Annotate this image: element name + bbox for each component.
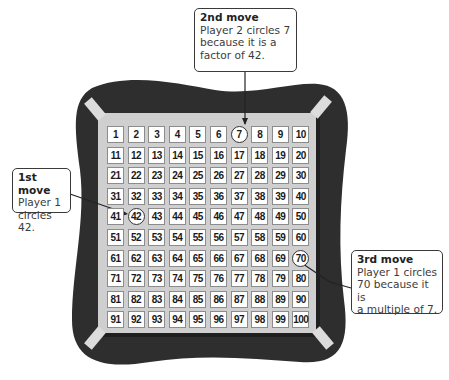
grid-cell[interactable]: 47	[231, 208, 248, 225]
grid-cell[interactable]: 27	[231, 167, 248, 184]
grid-cell[interactable]: 82	[128, 291, 145, 308]
grid-cell[interactable]: 98	[251, 311, 268, 328]
grid-cell[interactable]: 62	[128, 250, 145, 267]
grid-cell[interactable]: 52	[128, 229, 145, 246]
grid-cell[interactable]: 77	[231, 270, 248, 287]
grid-cell[interactable]: 34	[169, 188, 186, 205]
grid-cell[interactable]: 38	[251, 188, 268, 205]
grid-cell[interactable]: 29	[272, 167, 289, 184]
grid-cell[interactable]: 23	[148, 167, 165, 184]
grid-cell[interactable]: 100	[292, 311, 309, 328]
grid-cell[interactable]: 36	[210, 188, 227, 205]
grid-cell[interactable]: 5	[189, 126, 206, 143]
grid-cell[interactable]: 50	[292, 208, 309, 225]
grid-cell[interactable]: 91	[107, 311, 124, 328]
grid-cell[interactable]: 35	[189, 188, 206, 205]
grid-cell[interactable]: 71	[107, 270, 124, 287]
grid-cell[interactable]: 15	[189, 147, 206, 164]
grid-cell[interactable]: 88	[251, 291, 268, 308]
grid-cell[interactable]: 61	[107, 250, 124, 267]
grid-cell[interactable]: 95	[189, 311, 206, 328]
grid-cell[interactable]: 59	[272, 229, 289, 246]
grid-cell[interactable]: 84	[169, 291, 186, 308]
grid-cell-circled[interactable]: 7	[231, 126, 248, 143]
grid-cell[interactable]: 63	[148, 250, 165, 267]
grid-cell[interactable]: 45	[189, 208, 206, 225]
grid-cell[interactable]: 60	[292, 229, 309, 246]
grid-cell-circled[interactable]: 42	[128, 208, 145, 225]
grid-cell[interactable]: 76	[210, 270, 227, 287]
grid-cell[interactable]: 89	[272, 291, 289, 308]
grid-cell[interactable]: 68	[251, 250, 268, 267]
grid-cell[interactable]: 32	[128, 188, 145, 205]
grid-cell[interactable]: 6	[210, 126, 227, 143]
grid-cell[interactable]: 43	[148, 208, 165, 225]
grid-cell[interactable]: 87	[231, 291, 248, 308]
grid-cell[interactable]: 30	[292, 167, 309, 184]
grid-cell[interactable]: 10	[292, 126, 309, 143]
grid-cell[interactable]: 19	[272, 147, 289, 164]
grid-cell[interactable]: 86	[210, 291, 227, 308]
grid-cell[interactable]: 53	[148, 229, 165, 246]
grid-cell[interactable]: 3	[148, 126, 165, 143]
grid-cell[interactable]: 96	[210, 311, 227, 328]
grid-cell[interactable]: 13	[148, 147, 165, 164]
grid-cell[interactable]: 39	[272, 188, 289, 205]
grid-cell[interactable]: 16	[210, 147, 227, 164]
grid-cell[interactable]: 67	[231, 250, 248, 267]
grid-cell[interactable]: 18	[251, 147, 268, 164]
grid-cell[interactable]: 41	[107, 208, 124, 225]
grid-cell[interactable]: 51	[107, 229, 124, 246]
grid-cell[interactable]: 33	[148, 188, 165, 205]
grid-cell[interactable]: 22	[128, 167, 145, 184]
grid-cell[interactable]: 80	[292, 270, 309, 287]
grid-cell[interactable]: 81	[107, 291, 124, 308]
grid-cell[interactable]: 78	[251, 270, 268, 287]
grid-cell[interactable]: 99	[272, 311, 289, 328]
grid-cell[interactable]: 64	[169, 250, 186, 267]
grid-cell-circled[interactable]: 70	[292, 250, 309, 267]
grid-cell[interactable]: 55	[189, 229, 206, 246]
grid-cell[interactable]: 75	[189, 270, 206, 287]
grid-cell[interactable]: 46	[210, 208, 227, 225]
grid-cell[interactable]: 92	[128, 311, 145, 328]
grid-cell[interactable]: 48	[251, 208, 268, 225]
grid-cell[interactable]: 44	[169, 208, 186, 225]
grid-cell[interactable]: 79	[272, 270, 289, 287]
grid-cell[interactable]: 49	[272, 208, 289, 225]
grid-cell[interactable]: 37	[231, 188, 248, 205]
grid-cell[interactable]: 9	[272, 126, 289, 143]
grid-cell[interactable]: 97	[231, 311, 248, 328]
grid-cell[interactable]: 57	[231, 229, 248, 246]
grid-cell[interactable]: 72	[128, 270, 145, 287]
grid-cell[interactable]: 74	[169, 270, 186, 287]
grid-cell[interactable]: 17	[231, 147, 248, 164]
grid-cell[interactable]: 31	[107, 188, 124, 205]
grid-cell[interactable]: 58	[251, 229, 268, 246]
grid-cell[interactable]: 90	[292, 291, 309, 308]
grid-cell[interactable]: 8	[251, 126, 268, 143]
grid-cell[interactable]: 4	[169, 126, 186, 143]
grid-cell[interactable]: 20	[292, 147, 309, 164]
grid-cell[interactable]: 1	[107, 126, 124, 143]
grid-cell[interactable]: 25	[189, 167, 206, 184]
grid-cell[interactable]: 56	[210, 229, 227, 246]
grid-cell[interactable]: 94	[169, 311, 186, 328]
grid-cell[interactable]: 54	[169, 229, 186, 246]
grid-cell[interactable]: 69	[272, 250, 289, 267]
grid-cell[interactable]: 12	[128, 147, 145, 164]
grid-cell[interactable]: 21	[107, 167, 124, 184]
grid-cell[interactable]: 11	[107, 147, 124, 164]
grid-cell[interactable]: 93	[148, 311, 165, 328]
grid-cell[interactable]: 24	[169, 167, 186, 184]
grid-cell[interactable]: 83	[148, 291, 165, 308]
grid-cell[interactable]: 40	[292, 188, 309, 205]
grid-cell[interactable]: 14	[169, 147, 186, 164]
grid-cell[interactable]: 73	[148, 270, 165, 287]
grid-cell[interactable]: 85	[189, 291, 206, 308]
grid-cell[interactable]: 26	[210, 167, 227, 184]
grid-cell[interactable]: 66	[210, 250, 227, 267]
grid-cell[interactable]: 2	[128, 126, 145, 143]
grid-cell[interactable]: 65	[189, 250, 206, 267]
grid-cell[interactable]: 28	[251, 167, 268, 184]
